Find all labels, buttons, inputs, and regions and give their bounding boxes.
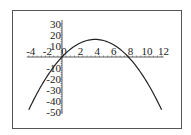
parabola-chart: -4-2024681012 302010-10-20-30-40-50: [0, 0, 191, 135]
x-tick-label: -4: [26, 45, 36, 57]
x-tick-label: 12: [158, 45, 169, 57]
x-tick-label: 10: [142, 45, 154, 57]
x-tick-label: 8: [128, 45, 134, 57]
x-tick-label: 4: [94, 45, 100, 57]
x-tick-labels: -4-2024681012: [26, 45, 169, 57]
y-tick-label: -50: [46, 106, 61, 118]
chart-frame: [13, 11, 182, 129]
x-tick-label: 2: [78, 45, 84, 57]
y-tick-label: 10: [50, 40, 62, 52]
